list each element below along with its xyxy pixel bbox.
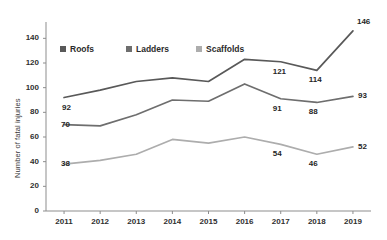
y-tick-label: 140 [13, 33, 39, 42]
data-label: 88 [309, 107, 318, 116]
legend-swatch-icon [196, 46, 202, 52]
data-label: 146 [357, 17, 370, 26]
data-label: 70 [61, 120, 70, 129]
data-label: 52 [358, 142, 367, 151]
legend-swatch-icon [126, 46, 132, 52]
data-label: 121 [273, 67, 286, 76]
x-tick-label: 2012 [83, 217, 117, 226]
x-tick-label: 2015 [192, 217, 226, 226]
plot-area [0, 0, 387, 240]
legend-item-ladders[interactable]: Ladders [126, 44, 169, 54]
legend-item-roofs[interactable]: Roofs [60, 44, 94, 54]
legend-label: Scaffolds [206, 44, 244, 54]
line-chart: Number of fatal injuries 020406080100120… [0, 0, 387, 240]
y-tick-label: 20 [13, 181, 39, 190]
data-label: 92 [62, 103, 71, 112]
x-tick-label: 2019 [336, 217, 370, 226]
series-line-ladders [64, 84, 353, 126]
y-tick-label: 100 [13, 83, 39, 92]
x-tick-label: 2013 [119, 217, 153, 226]
x-tick-label: 2017 [264, 217, 298, 226]
legend-item-scaffolds[interactable]: Scaffolds [196, 44, 244, 54]
x-tick-label: 2018 [300, 217, 334, 226]
legend-label: Ladders [136, 44, 169, 54]
data-label: 38 [61, 159, 70, 168]
y-tick-label: 80 [13, 107, 39, 116]
x-tick-label: 2014 [155, 217, 189, 226]
data-label: 54 [273, 149, 282, 158]
data-label: 93 [358, 91, 367, 100]
data-label: 91 [273, 104, 282, 113]
y-tick-label: 40 [13, 157, 39, 166]
series-line-roofs [64, 31, 353, 98]
y-tick-label: 120 [13, 58, 39, 67]
y-tick-label: 0 [13, 206, 39, 215]
x-tick-label: 2011 [47, 217, 81, 226]
legend-swatch-icon [60, 46, 66, 52]
y-tick-label: 60 [13, 132, 39, 141]
x-tick-label: 2016 [228, 217, 262, 226]
legend-label: Roofs [70, 44, 94, 54]
data-label: 46 [309, 159, 318, 168]
data-label: 114 [309, 75, 322, 84]
